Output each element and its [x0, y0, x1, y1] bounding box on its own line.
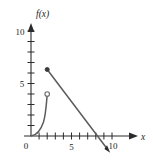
x-axis-arrow-icon: [129, 133, 138, 140]
plot-canvas: 5 10 f(x) 5 10 0 x: [0, 0, 153, 164]
y-axis-label: f(x): [36, 9, 49, 20]
function-graph-figure: 5 10 f(x) 5 10 0 x: [0, 0, 153, 164]
closed-endpoint-marker: [45, 67, 49, 71]
decreasing-line-path: [47, 70, 107, 150]
x-axis-group: 5 10 0 x: [24, 132, 146, 152]
origin-label: 0: [24, 141, 29, 151]
y-tick-label-10: 10: [16, 27, 26, 37]
x-tick-label-5: 5: [69, 142, 74, 152]
y-tick-label-5: 5: [20, 79, 25, 89]
open-endpoint-marker: [45, 92, 50, 97]
x-tick-label-10: 10: [109, 141, 119, 151]
x-axis-label: x: [140, 132, 146, 142]
